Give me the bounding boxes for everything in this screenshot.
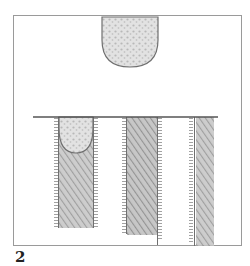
top-shield	[102, 17, 158, 67]
illustration	[0, 0, 250, 266]
figure-label: 2	[15, 248, 25, 266]
column-2	[122, 117, 162, 245]
column-3	[189, 117, 214, 246]
column-1	[54, 117, 98, 228]
